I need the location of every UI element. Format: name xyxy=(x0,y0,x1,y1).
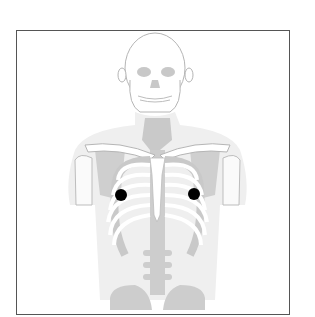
right-chest-marker xyxy=(115,189,127,201)
right-eye-socket xyxy=(137,67,151,77)
skeleton-illustration xyxy=(0,0,315,317)
left-chest-marker xyxy=(188,188,200,200)
skull xyxy=(118,33,193,112)
left-eye-socket xyxy=(161,67,175,77)
